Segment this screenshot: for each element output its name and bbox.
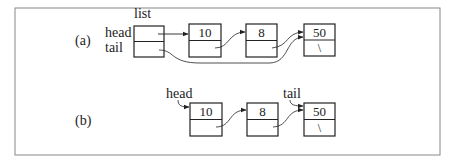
node-50-b: 50 \ xyxy=(304,103,335,136)
node-value: 10 xyxy=(199,25,212,40)
head-pointer-arrow xyxy=(178,100,189,107)
node-value: 50 xyxy=(313,25,326,40)
head-field-label: head xyxy=(105,25,131,40)
node-value: 50 xyxy=(313,104,326,119)
node10-next-arrow xyxy=(216,110,246,127)
node-value: 10 xyxy=(200,104,213,119)
node-10-b: 10 xyxy=(190,103,222,136)
tail-field-label: tail xyxy=(105,40,123,55)
list-struct-name: list xyxy=(134,6,151,21)
head-label: head xyxy=(166,86,192,101)
part-b-label: (b) xyxy=(75,113,92,129)
figure-frame xyxy=(15,8,440,155)
part-b: (b) head tail 10 8 50 \ xyxy=(75,86,335,136)
node-8-b: 8 xyxy=(247,103,278,136)
part-a-label: (a) xyxy=(75,33,91,49)
null-pointer: \ xyxy=(318,41,322,55)
node-value: 8 xyxy=(259,104,266,119)
list-struct-box xyxy=(134,26,164,57)
null-pointer: \ xyxy=(318,121,322,135)
tail-pointer-arrow xyxy=(159,37,303,63)
tail-label: tail xyxy=(283,86,301,101)
node-10-a: 10 xyxy=(189,24,221,57)
node-50-a: 50 \ xyxy=(304,24,335,56)
node-value: 8 xyxy=(258,25,265,40)
linked-list-diagram: (a) list head tail 10 8 50 \ xyxy=(0,0,464,165)
node-8-a: 8 xyxy=(246,24,277,57)
part-a: (a) list head tail 10 8 50 \ xyxy=(75,6,335,63)
